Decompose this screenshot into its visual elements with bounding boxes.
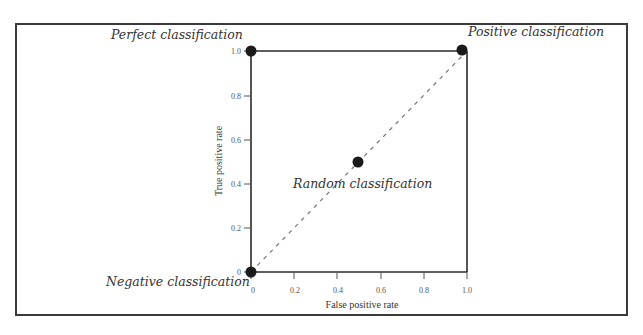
point-positive [457, 45, 468, 56]
roc-space-chart: 0 0.2 0.4 0.6 0.8 1.0 0 0.2 0.4 0.6 0.8 … [0, 0, 643, 335]
x-tick-label: 0.8 [419, 286, 429, 295]
y-tick-label: 0.4 [231, 180, 241, 189]
negative-classification-label: Negative classification [106, 274, 250, 289]
y-tick-label: 1.0 [231, 47, 241, 56]
positive-classification-label: Positive classification [468, 24, 604, 39]
perfect-classification-label: Perfect classification [111, 27, 243, 42]
point-perfect [246, 46, 257, 57]
y-tick-label: 0.6 [231, 136, 241, 145]
y-tick-label: 0.8 [231, 92, 241, 101]
x-tick-label: 1.0 [462, 286, 472, 295]
x-ticks: 0 0.2 0.4 0.6 0.8 1.0 [251, 272, 472, 295]
x-tick-label: 0.2 [290, 286, 300, 295]
y-tick-label: 0.2 [231, 224, 241, 233]
point-random [353, 157, 364, 168]
x-tick-label: 0.4 [333, 286, 343, 295]
x-tick-label: 0 [251, 286, 255, 295]
y-ticks: 0 0.2 0.4 0.6 0.8 1.0 [231, 47, 251, 277]
x-axis-label: False positive rate [326, 299, 399, 310]
random-classification-label: Random classification [293, 176, 432, 191]
y-axis-label: True positive rate [213, 125, 224, 196]
x-tick-label: 0.6 [376, 286, 386, 295]
